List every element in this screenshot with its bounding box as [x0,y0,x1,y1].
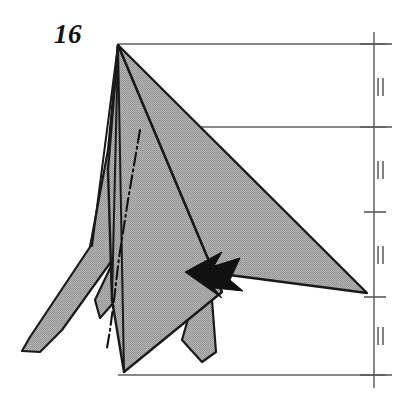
equal-mark-2 [378,161,383,179]
scale-ticks [360,44,392,375]
equal-mark-1 [378,78,383,96]
equal-mark-3 [378,246,383,264]
origami-illustration [0,0,413,396]
equal-division-scale [360,32,392,388]
step-number-label: 16 [54,21,82,48]
origami-diagram: 16 [0,0,413,396]
equal-mark-4 [378,327,383,345]
